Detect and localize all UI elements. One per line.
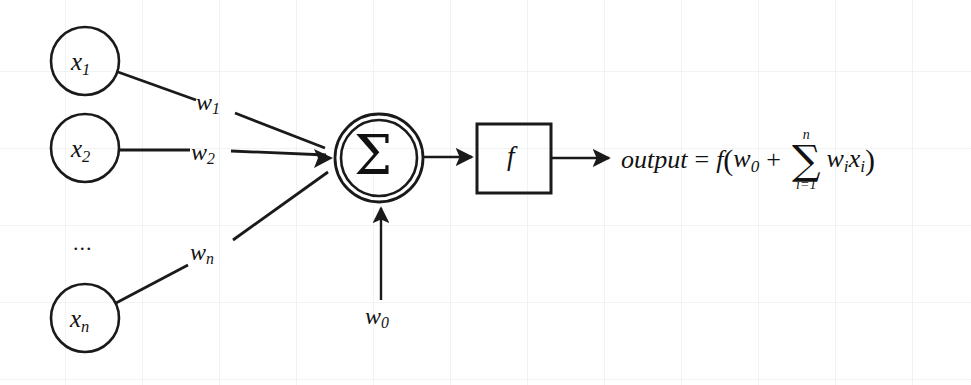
formula-lower-limit: i=1 — [796, 178, 816, 193]
formula-summation-operator: n ∑ i=1 — [792, 128, 821, 193]
diagram-canvas: x1 x2 ... xn w1 w2 wn w0 Σ f output = f … — [0, 0, 971, 385]
formula-input-term: xi — [849, 146, 865, 175]
formula-open-paren: ( — [723, 145, 733, 175]
connection-xn-segment-b — [233, 172, 328, 240]
input-label-x1: x1 — [71, 49, 90, 78]
formula-f: f — [716, 147, 723, 173]
bias-label-w0: w0 — [365, 304, 389, 331]
connection-x1-segment-b — [235, 113, 325, 148]
weight-label-w2: w2 — [191, 140, 215, 167]
formula-sigma-icon: ∑ — [792, 143, 821, 178]
inputs-arrowhead — [314, 149, 333, 168]
input-ellipsis: ... — [73, 230, 93, 256]
output-formula: output = f ( w0 + n ∑ i=1 wi xi ) — [621, 128, 875, 193]
input-label-xn: xn — [70, 306, 89, 335]
summation-sigma-icon: Σ — [354, 129, 392, 183]
connection-x1-segment-a — [118, 72, 196, 100]
weight-label-w1: w1 — [196, 90, 220, 117]
formula-output-word: output — [621, 147, 687, 173]
connection-xn-segment-a — [116, 265, 188, 303]
weight-label-wn: wn — [190, 240, 214, 267]
formula-equals: = — [694, 147, 709, 173]
formula-close-paren: ) — [865, 145, 875, 175]
formula-weight-term: wi — [827, 146, 849, 175]
activation-function-label: f — [507, 143, 515, 170]
connection-x2-segment-b — [231, 151, 326, 155]
formula-plus: + — [766, 147, 781, 173]
formula-bias-term: w0 — [733, 146, 759, 175]
input-label-x2: x2 — [71, 136, 90, 165]
